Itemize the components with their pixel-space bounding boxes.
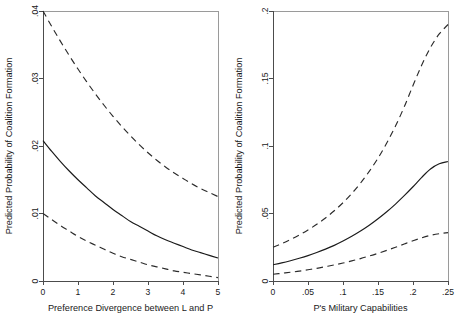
- x-tick-label: 1: [76, 287, 81, 297]
- x-tick-label: 4: [181, 287, 186, 297]
- plot-frame-outline: [273, 11, 448, 281]
- y-tick-label: .04: [30, 5, 40, 17]
- plot-frame-left: [43, 11, 218, 281]
- plot-frame-right: [273, 11, 448, 281]
- x-axis-title-left: Preference Divergence between L and P: [48, 303, 213, 313]
- confidence-bound-curve: [273, 233, 448, 275]
- confidence-bound-curve: [43, 11, 218, 197]
- military-capabilities-panel: 0.05.1.15.20.05.1.15.2.25 P's Military C…: [230, 0, 460, 323]
- y-tick-label: .15: [260, 72, 270, 84]
- right-plot-svg: 0.05.1.15.20.05.1.15.2.25 P's Military C…: [230, 0, 460, 323]
- plot-axes: [273, 11, 448, 281]
- y-tick-label: 0: [30, 278, 40, 283]
- y-axis-title-left: Predicted Probability of Coalition Forma…: [4, 58, 14, 235]
- plot-axes: [43, 11, 218, 281]
- tick-labels-left: 0.01.02.03.04012345: [30, 5, 220, 297]
- predicted-probability-curve: [43, 141, 218, 258]
- y-tick-label: .02: [30, 140, 40, 152]
- x-tick-label: 0: [271, 287, 276, 297]
- curves-left: [43, 11, 218, 278]
- confidence-bound-curve: [43, 214, 218, 278]
- x-tick-label: 2: [111, 287, 116, 297]
- y-tick-label: .01: [30, 207, 40, 219]
- x-tick-label: .05: [302, 287, 314, 297]
- y-tick-label: .1: [260, 142, 270, 149]
- left-plot-svg: 0.01.02.03.04012345 Preference Divergenc…: [0, 0, 230, 323]
- x-tick-label: 5: [216, 287, 221, 297]
- x-tick-label: .15: [372, 287, 384, 297]
- y-tick-label: .03: [30, 72, 40, 84]
- figure-container: 0.01.02.03.04012345 Preference Divergenc…: [0, 0, 460, 323]
- x-tick-label: .2: [409, 287, 416, 297]
- x-tick-label: 3: [146, 287, 151, 297]
- x-axis-title-right: P's Military Capabilities: [313, 303, 408, 313]
- y-tick-label: .2: [260, 7, 270, 14]
- predicted-probability-curve: [273, 162, 448, 265]
- preference-divergence-panel: 0.01.02.03.04012345 Preference Divergenc…: [0, 0, 230, 323]
- x-tick-label: .1: [339, 287, 346, 297]
- tick-labels-right: 0.05.1.15.20.05.1.15.2.25: [260, 7, 454, 297]
- curves-right: [273, 25, 448, 275]
- tick-marks-left: [39, 11, 218, 285]
- x-tick-label: .25: [442, 287, 454, 297]
- y-tick-label: 0: [260, 278, 270, 283]
- confidence-bound-curve: [273, 25, 448, 248]
- tick-marks-right: [269, 11, 448, 285]
- x-tick-label: 0: [41, 287, 46, 297]
- plot-frame-outline: [43, 11, 218, 281]
- y-tick-label: .05: [260, 207, 270, 219]
- y-axis-title-right: Predicted Probability of Coalition Forma…: [234, 58, 244, 235]
